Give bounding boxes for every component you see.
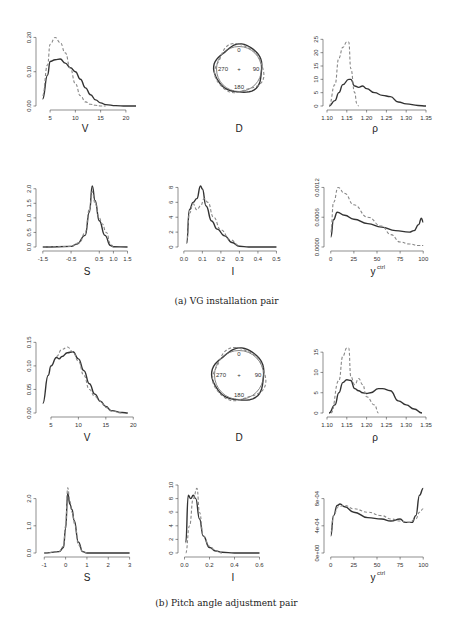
y-tick-label: 0.10 — [26, 65, 32, 77]
y-tick-label: 2 — [168, 230, 174, 234]
density-solid — [44, 493, 129, 553]
x-tick-label: 1.35 — [420, 422, 432, 428]
density-solid — [329, 380, 422, 413]
compass-label: 270 — [218, 66, 229, 72]
x-tick-label: 1.5 — [123, 256, 132, 262]
x-tick-label: 25 — [351, 562, 358, 568]
x-axis-label: S — [84, 266, 91, 277]
y-tick-label: 0.0000 — [314, 237, 320, 256]
density-dashed — [43, 192, 114, 247]
density-solid — [43, 186, 128, 247]
chart-a_rho: 1.101.151.201.251.301.350510152025ρ — [313, 35, 432, 134]
x-axis-label: y — [371, 572, 376, 583]
x-tick-label: 0.4 — [230, 562, 239, 568]
density-dashed — [44, 488, 87, 553]
y-tick-label: 4 — [168, 523, 174, 527]
y-tick-label: 6 — [168, 200, 174, 204]
x-tick-label: 10 — [72, 115, 79, 121]
density-dashed — [329, 42, 359, 106]
x-tick-label: 0.0 — [180, 562, 189, 568]
x-tick-label: 20 — [123, 115, 130, 121]
x-axis-label: D — [235, 432, 242, 443]
x-tick-label: 1.25 — [381, 422, 393, 428]
compass-label: 270 — [216, 372, 227, 378]
y-tick-label: 6 — [168, 510, 174, 514]
chart-a_I: 0.00.10.20.30.40.502468I — [168, 185, 281, 277]
y-tick-label: 1.0 — [26, 521, 32, 530]
chart-a_V: 51015200.000.100.20V — [26, 31, 136, 134]
x-axis-label-superscript: ctrl — [377, 264, 385, 270]
y-tick-label: 0.05 — [26, 383, 32, 395]
y-tick-label: 8 — [168, 185, 174, 189]
x-tick-label: 0.1 — [198, 256, 207, 262]
y-tick-label: 4e-04 — [314, 517, 320, 533]
y-tick-label: 0 — [313, 104, 319, 108]
x-tick-label: -1 — [42, 562, 48, 568]
density-dashed — [56, 347, 122, 413]
density-dashed — [331, 348, 379, 413]
x-tick-label: 1.0 — [109, 256, 118, 262]
x-tick-label: -0.5 — [66, 256, 77, 262]
x-tick-label: 3 — [128, 562, 132, 568]
y-tick-label: 10 — [313, 368, 319, 375]
y-tick-label: 0.0012 — [314, 178, 320, 197]
x-tick-label: 2 — [107, 562, 111, 568]
y-tick-label: 5 — [313, 90, 319, 94]
x-tick-label: 1.15 — [341, 115, 353, 121]
x-tick-label: 20 — [130, 422, 137, 428]
x-tick-label: 15 — [102, 422, 109, 428]
y-tick-label: 0e+00 — [314, 544, 320, 562]
x-tick-label: 50 — [374, 562, 381, 568]
x-tick-label: 1.30 — [400, 115, 412, 121]
x-tick-label: 10 — [75, 422, 82, 428]
x-tick-label: 1.15 — [341, 422, 353, 428]
y-tick-label: 0.20 — [26, 31, 32, 43]
chart-b_rho: 1.101.151.201.251.301.35051015ρ — [313, 348, 432, 443]
x-tick-label: 0.4 — [254, 256, 263, 262]
density-solid — [43, 59, 136, 106]
x-tick-label: 1.30 — [400, 422, 412, 428]
x-tick-label: 75 — [397, 256, 404, 262]
x-axis-label: V — [84, 432, 91, 443]
x-tick-label: 25 — [351, 256, 358, 262]
x-tick-label: 5 — [48, 115, 52, 121]
y-tick-label: 15 — [313, 348, 319, 355]
x-axis-label: D — [235, 123, 242, 134]
y-tick-label: 15 — [313, 62, 319, 69]
x-tick-label: 0 — [64, 562, 68, 568]
compass-label: 180 — [234, 84, 245, 90]
x-axis-label: S — [84, 572, 91, 583]
y-tick-label: 5 — [313, 390, 319, 394]
compass-label: 180 — [234, 392, 245, 398]
y-tick-label: 2.0 — [26, 184, 32, 193]
y-tick-label: 4 — [168, 215, 174, 219]
center-marker: + — [237, 372, 241, 378]
caption-b: (b) Pitch angle adjustment pair — [0, 598, 453, 608]
density-dashed — [331, 187, 423, 245]
x-axis-label-superscript: ctrl — [377, 570, 385, 576]
chart-a_S: -1.5-0.50.51.01.50.00.51.01.52.0S — [26, 184, 132, 277]
chart-a_D: 090180270+D — [214, 44, 264, 135]
y-tick-label: 1.0 — [26, 213, 32, 222]
x-tick-label: 100 — [418, 562, 429, 568]
y-tick-label: 10 — [313, 75, 319, 82]
y-tick-label: 2.0 — [26, 494, 32, 503]
x-tick-label: 0 — [329, 562, 333, 568]
compass-label: 0 — [237, 47, 241, 53]
x-tick-label: 1.25 — [381, 115, 393, 121]
compass-label: 0 — [237, 351, 241, 357]
y-tick-label: 0.5 — [26, 228, 32, 237]
chart-b_y: 02550751000e+004e-048e-04yctrl — [314, 488, 429, 583]
x-tick-label: 1.10 — [321, 115, 333, 121]
x-tick-label: 5 — [49, 422, 53, 428]
density-solid — [329, 79, 426, 106]
chart-b_V: 51015200.000.050.100.15V — [26, 336, 137, 443]
density-solid — [187, 186, 277, 247]
y-tick-label: 0.00 — [26, 100, 32, 112]
y-tick-label: 2 — [168, 537, 174, 541]
y-tick-label: 8e-04 — [314, 490, 320, 506]
x-tick-label: 50 — [374, 256, 381, 262]
x-axis-label: I — [232, 266, 235, 277]
density-solid — [331, 488, 423, 536]
x-axis-label: I — [232, 572, 235, 583]
